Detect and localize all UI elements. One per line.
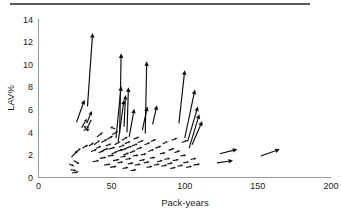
vector-shaft bbox=[134, 138, 137, 139]
vector-shaft bbox=[115, 143, 119, 145]
vector-shaft bbox=[82, 146, 86, 148]
y-tick-label: 4 bbox=[28, 128, 33, 138]
vector-shaft bbox=[169, 149, 172, 150]
x-tick-label: 200 bbox=[323, 181, 338, 191]
vector-shaft bbox=[110, 167, 114, 168]
vector-shaft bbox=[130, 151, 133, 152]
vector-shaft bbox=[97, 134, 101, 137]
vector-arrowhead bbox=[176, 159, 179, 161]
vector-shaft bbox=[71, 170, 74, 171]
vector-arrowhead bbox=[154, 105, 158, 110]
vector-shaft bbox=[138, 141, 141, 142]
y-tick-label: 2 bbox=[28, 150, 33, 160]
vector-shaft bbox=[127, 92, 128, 133]
vector-shaft bbox=[108, 155, 112, 156]
vector-shaft bbox=[194, 164, 198, 165]
vector-arrowhead bbox=[153, 156, 156, 158]
vector-shaft bbox=[148, 150, 151, 151]
vector-shaft bbox=[113, 128, 116, 129]
vector-arrowhead bbox=[81, 100, 85, 105]
vector-arrowhead bbox=[197, 163, 200, 165]
vector-shaft bbox=[145, 66, 146, 134]
vector-shaft bbox=[167, 163, 170, 164]
vector-arrowhead bbox=[90, 33, 94, 38]
vector-shaft bbox=[96, 147, 99, 148]
vector-shaft bbox=[94, 142, 98, 145]
x-axis-tick-labels: 050100150200 bbox=[36, 181, 339, 191]
vector-shaft bbox=[123, 168, 126, 169]
vector-arrowhead bbox=[164, 164, 167, 166]
figure-panel: 02468101214 050100150200 Pack-years LAV% bbox=[0, 0, 341, 212]
x-tick-label: 50 bbox=[107, 181, 117, 191]
y-tick-label: 12 bbox=[23, 37, 33, 47]
x-axis-title: Pack-years bbox=[161, 197, 209, 208]
vector-shaft bbox=[183, 162, 186, 163]
vector-shaft bbox=[147, 167, 150, 168]
y-tick-label: 10 bbox=[23, 60, 33, 70]
vector-arrowhead bbox=[121, 161, 124, 163]
vector-arrowhead bbox=[167, 158, 170, 160]
y-tick-label: 14 bbox=[23, 15, 33, 25]
vector-shaft bbox=[104, 164, 108, 165]
vector-arrowhead bbox=[74, 169, 77, 171]
x-tick-label: 150 bbox=[250, 181, 265, 191]
vector-shaft bbox=[93, 161, 97, 162]
vector-shaft bbox=[145, 143, 148, 144]
vector-shaft bbox=[112, 133, 116, 135]
vector-arrowhead bbox=[181, 164, 184, 166]
vector-arrowhead bbox=[123, 95, 127, 100]
vector-arrowhead bbox=[228, 159, 233, 163]
vector-shaft bbox=[126, 147, 129, 148]
vector-arrowhead bbox=[131, 162, 134, 164]
vector-arrowhead bbox=[195, 106, 199, 111]
vector-shaft bbox=[161, 166, 164, 167]
vector-arrowhead bbox=[192, 89, 196, 94]
vector-arrowhead bbox=[126, 87, 130, 92]
vector-shaft bbox=[182, 141, 185, 142]
vector-shaft bbox=[125, 142, 128, 143]
y-tick-label: 0 bbox=[28, 173, 33, 183]
vector-shaft bbox=[156, 147, 159, 148]
vector-shaft bbox=[139, 160, 142, 161]
y-axis-title: LAV% bbox=[5, 85, 16, 111]
vector-arrowhead bbox=[119, 53, 123, 58]
vector-shaft bbox=[163, 142, 166, 143]
vector-arrowhead bbox=[194, 158, 197, 160]
vector-arrowhead bbox=[173, 167, 176, 169]
vector-shaft bbox=[170, 168, 173, 169]
vector-shaft bbox=[160, 153, 163, 154]
vector-shaft bbox=[91, 150, 94, 151]
vector-arrowhead bbox=[189, 165, 192, 167]
vector-shaft bbox=[69, 164, 72, 165]
y-tick-label: 8 bbox=[28, 82, 33, 92]
vector-shaft bbox=[180, 155, 183, 156]
vector-shaft bbox=[101, 140, 105, 142]
vector-arrowhead bbox=[142, 159, 145, 161]
vector-shaft bbox=[220, 150, 233, 153]
vector-shaft bbox=[123, 154, 126, 155]
vector-shaft bbox=[106, 145, 109, 146]
vector-arrowhead bbox=[186, 161, 189, 163]
vector-shaft bbox=[175, 151, 178, 152]
vector-arrowhead bbox=[157, 163, 160, 165]
vector-shaft bbox=[136, 148, 139, 149]
vector-arrowhead bbox=[108, 163, 111, 165]
vector-arrowhead bbox=[144, 153, 147, 155]
vector-arrowhead bbox=[112, 147, 115, 149]
vector-shaft bbox=[164, 159, 167, 160]
vector-shaft bbox=[135, 164, 138, 165]
vector-arrowhead bbox=[129, 158, 132, 160]
vector-arrowhead bbox=[182, 70, 186, 75]
vector-arrowhead bbox=[170, 162, 173, 164]
vector-arrowhead bbox=[112, 154, 115, 156]
vector-arrowhead bbox=[144, 61, 148, 66]
vector-arrowhead bbox=[196, 114, 200, 119]
vector-shaft bbox=[132, 145, 135, 146]
vector-shaft bbox=[131, 170, 134, 171]
vector-arrowhead bbox=[96, 160, 99, 162]
vector-shaft bbox=[154, 164, 157, 165]
vector-shaft bbox=[117, 162, 120, 163]
vector-shaft bbox=[120, 157, 123, 158]
vector-shaft bbox=[141, 154, 144, 155]
vector-arrowhead bbox=[131, 109, 135, 114]
